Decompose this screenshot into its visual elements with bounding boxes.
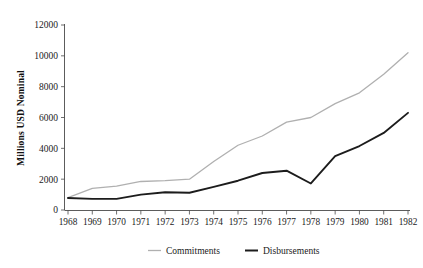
x-tick-label: 1973 (180, 217, 199, 227)
x-tick-label: 1980 (350, 217, 369, 227)
x-tick-label: 1979 (326, 217, 345, 227)
line-chart: Millions USD Nominal 0200040006000800010… (0, 0, 423, 268)
y-tick-label: 10000 (34, 51, 58, 61)
x-tick-label: 1976 (253, 217, 272, 227)
series-line-commitments (68, 53, 408, 198)
x-tick-label: 1981 (374, 217, 393, 227)
y-tick-label: 12000 (34, 20, 58, 30)
y-tick-label: 0 (53, 205, 58, 215)
y-tick-label: 6000 (39, 113, 58, 123)
legend-label-commitments: Commitments (166, 246, 220, 256)
x-tick-label: 1969 (83, 217, 102, 227)
x-tick-label: 1968 (59, 217, 78, 227)
data-series-group (68, 53, 408, 199)
legend-label-disbursements: Disbursements (263, 246, 320, 256)
x-tick-label: 1972 (156, 217, 175, 227)
y-axis-title-text: Millions USD Nominal (16, 70, 26, 166)
y-tick-label: 4000 (39, 144, 58, 154)
y-axis-ticks: 020004000600080001000012000 (34, 20, 64, 215)
y-tick-label: 8000 (39, 82, 58, 92)
x-tick-label: 1970 (107, 217, 126, 227)
x-tick-label: 1975 (229, 217, 248, 227)
chart-legend: CommitmentsDisbursements (148, 246, 320, 256)
x-tick-label: 1978 (302, 217, 321, 227)
chart-container: Millions USD Nominal 0200040006000800010… (0, 0, 423, 268)
x-tick-label: 1982 (399, 217, 418, 227)
x-tick-label: 1971 (132, 217, 151, 227)
y-axis-title: Millions USD Nominal (16, 70, 26, 166)
x-tick-label: 1974 (204, 217, 223, 227)
x-tick-label: 1977 (277, 217, 296, 227)
x-axis-ticks: 1968196919701971197219731974197519761977… (59, 211, 418, 228)
y-tick-label: 2000 (39, 175, 58, 185)
